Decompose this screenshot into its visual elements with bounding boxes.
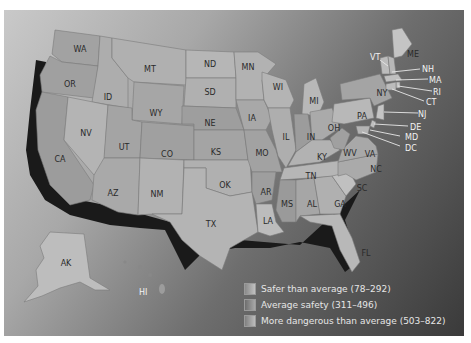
label-VT: VT <box>370 53 380 62</box>
label-MD: MD <box>405 133 418 142</box>
label-AZ: AZ <box>108 189 119 198</box>
leader-CT <box>392 89 424 101</box>
legend: Safer than average (78–292) Average safe… <box>244 281 446 329</box>
label-MI: MI <box>309 97 318 106</box>
label-ID: ID <box>104 93 113 102</box>
label-AK: AK <box>61 259 72 268</box>
label-SC: SC <box>357 184 368 193</box>
label-MT: MT <box>144 65 156 74</box>
legend-item-average: Average safety (311–496) <box>244 297 446 313</box>
state-NM[interactable] <box>138 158 184 215</box>
legend-label-safer: Safer than average (78–292) <box>261 284 391 294</box>
state-PA[interactable] <box>332 98 374 124</box>
legend-label-dangerous: More dangerous than average (503–822) <box>261 316 446 326</box>
label-OH: OH <box>328 124 340 133</box>
label-RI: RI <box>433 88 441 97</box>
label-AR: AR <box>260 188 271 197</box>
label-KY: KY <box>317 153 327 162</box>
label-OR: OR <box>64 80 76 89</box>
legend-label-average: Average safety (311–496) <box>261 300 377 310</box>
label-PA: PA <box>357 112 367 121</box>
label-CO: CO <box>161 150 173 159</box>
label-SD: SD <box>204 88 215 97</box>
label-GA: GA <box>334 200 346 209</box>
legend-swatch-average <box>244 299 256 311</box>
label-NM: NM <box>151 190 164 199</box>
label-KS: KS <box>211 148 221 157</box>
leader-NJ <box>384 112 418 113</box>
label-NH: NH <box>422 65 434 74</box>
label-HI: HI <box>139 288 147 297</box>
label-CT: CT <box>426 98 437 107</box>
label-NY: NY <box>377 89 388 98</box>
label-NJ: NJ <box>418 110 426 119</box>
label-FL: FL <box>361 249 371 258</box>
legend-item-safer: Safer than average (78–292) <box>244 281 446 297</box>
state-RI[interactable] <box>396 82 400 88</box>
label-OK: OK <box>219 181 231 190</box>
legend-item-dangerous: More dangerous than average (503–822) <box>244 313 446 329</box>
label-WY: WY <box>150 109 163 118</box>
label-MA: MA <box>429 76 442 85</box>
label-DE: DE <box>410 123 421 132</box>
legend-swatch-dangerous <box>244 315 256 327</box>
leader-DE <box>374 124 408 126</box>
map-frame: WA OR CA ID NV MT WY UT AZ CO NM ND SD N… <box>4 10 464 336</box>
label-WA: WA <box>74 45 87 54</box>
label-MS: MS <box>281 200 293 209</box>
label-NC: NC <box>370 165 382 174</box>
leader-MD <box>370 130 400 136</box>
label-TX: TX <box>205 220 217 229</box>
label-IN: IN <box>307 133 315 142</box>
label-LA: LA <box>263 217 274 226</box>
label-IL: IL <box>283 133 290 142</box>
label-NV: NV <box>80 129 92 138</box>
label-WI: WI <box>273 83 283 92</box>
leader-NH <box>392 69 420 72</box>
label-MN: MN <box>242 63 255 72</box>
label-MO: MO <box>255 149 268 158</box>
legend-swatch-safer <box>244 283 256 295</box>
label-UT: UT <box>119 143 130 152</box>
state-MA[interactable] <box>384 74 402 82</box>
label-DC: DC <box>405 144 417 153</box>
label-IA: IA <box>248 114 256 123</box>
label-AL: AL <box>307 200 317 209</box>
label-ND: ND <box>204 60 216 69</box>
label-NE: NE <box>204 119 215 128</box>
label-VA: VA <box>365 150 376 159</box>
label-WV: WV <box>343 149 357 158</box>
label-CA: CA <box>54 155 66 164</box>
label-ME: ME <box>407 50 419 59</box>
state-CT[interactable] <box>386 82 396 90</box>
state-NJ[interactable] <box>376 104 384 120</box>
label-TN: TN <box>305 172 317 181</box>
leader-RI <box>398 86 432 91</box>
